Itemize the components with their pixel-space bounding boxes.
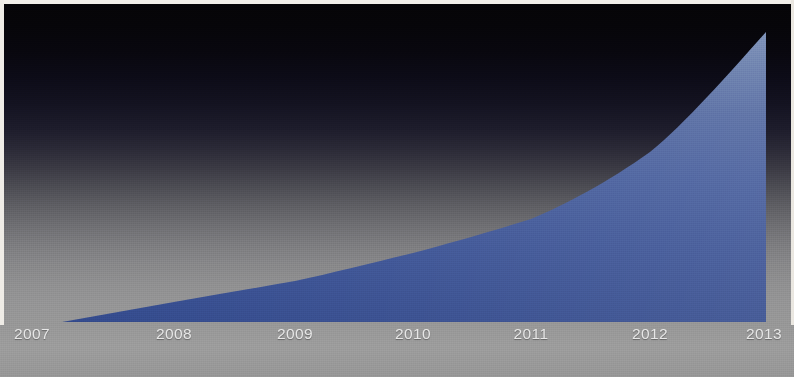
- x-tick-label-2007: 2007: [14, 325, 50, 343]
- x-tick-label-2011: 2011: [514, 325, 549, 343]
- x-tick-label-2008: 2008: [156, 325, 192, 343]
- x-tick-label-2009: 2009: [277, 325, 313, 343]
- figure-border-left: [0, 0, 4, 325]
- x-tick-label-2010: 2010: [395, 325, 431, 343]
- area-chart-figure: 2007 2008 2009 2010 2011 2012 2013: [0, 0, 794, 377]
- x-tick-label-2013: 2013: [746, 325, 782, 343]
- area-series-sheen: [62, 32, 766, 322]
- x-axis-labels: 2007 2008 2009 2010 2011 2012 2013: [0, 322, 794, 377]
- area-series-svg: [0, 0, 794, 322]
- x-tick-label-2012: 2012: [632, 325, 668, 343]
- figure-border-top: [0, 0, 794, 4]
